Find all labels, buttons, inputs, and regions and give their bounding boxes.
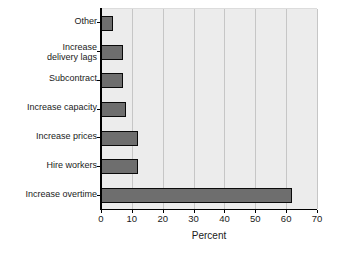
- x-tick-label-40: 40: [209, 213, 239, 224]
- x-tick-label-60: 60: [271, 213, 301, 224]
- category-label-hire-workers: Hire workers: [0, 160, 97, 170]
- category-label-increase-overtime: Increase overtime: [0, 189, 97, 199]
- bars-layer: [101, 9, 317, 209]
- bar-other: [101, 16, 113, 31]
- bar-chart: Other Increase delivery lags Subcontract…: [0, 0, 339, 253]
- y-tick-other: [97, 22, 100, 23]
- x-tick-label-10: 10: [117, 213, 147, 224]
- bar-hire-workers: [101, 159, 138, 174]
- x-tick-label-30: 30: [179, 213, 209, 224]
- plot-area: [101, 8, 317, 209]
- category-label-increase-capacity: Increase capacity: [0, 102, 97, 112]
- bar-increase-prices: [101, 131, 138, 146]
- x-tick-label-20: 20: [148, 213, 178, 224]
- category-label-increase-delivery-lags: Increase delivery lags: [0, 42, 97, 62]
- y-axis-line: [100, 8, 102, 210]
- x-tick-label-50: 50: [240, 213, 270, 224]
- bar-increase-capacity: [101, 102, 126, 117]
- bar-increase-delivery-lags: [101, 45, 123, 60]
- category-label-subcontract: Subcontract: [0, 73, 97, 83]
- y-tick-hire-workers: [97, 166, 100, 167]
- bar-subcontract: [101, 73, 123, 88]
- x-tick-label-0: 0: [86, 213, 116, 224]
- y-tick-increase-capacity: [97, 109, 100, 110]
- y-tick-subcontract: [97, 80, 100, 81]
- bar-increase-overtime: [101, 188, 292, 203]
- y-tick-increase-overtime: [97, 195, 100, 196]
- gridline-70: [317, 9, 318, 209]
- y-tick-increase-prices: [97, 137, 100, 138]
- category-label-other: Other: [0, 16, 97, 26]
- x-tick-label-70: 70: [302, 213, 332, 224]
- category-label-increase-prices: Increase prices: [0, 131, 97, 141]
- category-axis: Other Increase delivery lags Subcontract…: [0, 8, 97, 209]
- x-axis-title: Percent: [101, 230, 317, 241]
- y-tick-increase-delivery-lags: [97, 51, 100, 52]
